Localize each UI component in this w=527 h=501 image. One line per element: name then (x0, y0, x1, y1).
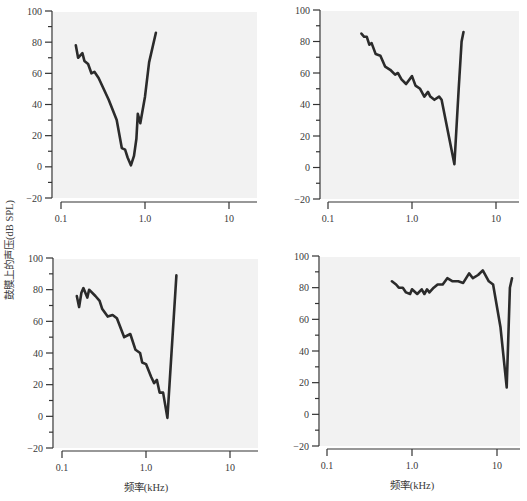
plot-area (54, 259, 258, 448)
panel-bottom-left: −200204060801000.11.010频率(kHz) (27, 253, 258, 495)
y-tick-label: 80 (33, 284, 43, 295)
y-tick-label: 80 (299, 282, 309, 293)
x-tick-label: 10 (492, 460, 502, 471)
x-axis-title: 频率(kHz) (124, 481, 169, 494)
x-tick-label: 0.1 (55, 213, 68, 224)
x-tick-label: 0.1 (322, 213, 335, 224)
y-tick-label: 80 (300, 36, 310, 47)
y-tick-label: 60 (33, 316, 43, 327)
plot-area (320, 257, 520, 446)
y-tick-label: 0 (305, 162, 310, 173)
y-tick-label: 40 (300, 99, 310, 110)
y-axis-title: 鼓膜上的声压(dB SPL) (3, 200, 16, 300)
x-tick-label: 10 (224, 213, 234, 224)
panel-top-right: −200204060801000.11.010 (294, 5, 519, 225)
y-tick-label: 0 (37, 161, 42, 172)
y-tick-label: −20 (293, 441, 309, 452)
y-tick-label: 20 (32, 130, 42, 141)
y-tick-label: 100 (295, 5, 310, 16)
y-tick-label: 0 (38, 411, 43, 422)
y-tick-label: 60 (300, 68, 310, 79)
plot-area (321, 11, 519, 199)
panel-top-left: −200204060801000.11.010 (26, 6, 257, 225)
y-tick-label: −20 (294, 194, 310, 205)
y-tick-label: 100 (28, 253, 43, 264)
y-tick-label: 100 (294, 251, 309, 262)
x-tick-label: 1.0 (406, 213, 419, 224)
y-tick-label: 100 (27, 6, 42, 17)
y-tick-label: 40 (32, 99, 42, 110)
panel-bottom-right: −200204060801000.11.010频率(kHz) (293, 251, 520, 493)
x-tick-label: 10 (491, 213, 501, 224)
y-tick-label: 60 (299, 314, 309, 325)
y-tick-label: 20 (33, 379, 43, 390)
x-tick-label: 1.0 (139, 213, 152, 224)
y-tick-label: 80 (32, 37, 42, 48)
x-axis-title: 频率(kHz) (390, 479, 435, 492)
y-tick-label: 20 (300, 131, 310, 142)
x-tick-label: 1.0 (140, 462, 153, 473)
x-tick-label: 0.1 (321, 460, 334, 471)
y-tick-label: 40 (33, 348, 43, 359)
x-tick-label: 0.1 (56, 462, 69, 473)
y-tick-label: −20 (27, 443, 43, 454)
y-tick-label: 0 (304, 409, 309, 420)
figure: 鼓膜上的声压(dB SPL) −200204060801000.11.010−2… (0, 0, 527, 501)
y-tick-label: 20 (299, 377, 309, 388)
y-tick-label: 40 (299, 346, 309, 357)
x-tick-label: 1.0 (406, 460, 419, 471)
x-tick-label: 10 (225, 462, 235, 473)
y-tick-label: −20 (26, 193, 42, 204)
y-tick-label: 60 (32, 68, 42, 79)
